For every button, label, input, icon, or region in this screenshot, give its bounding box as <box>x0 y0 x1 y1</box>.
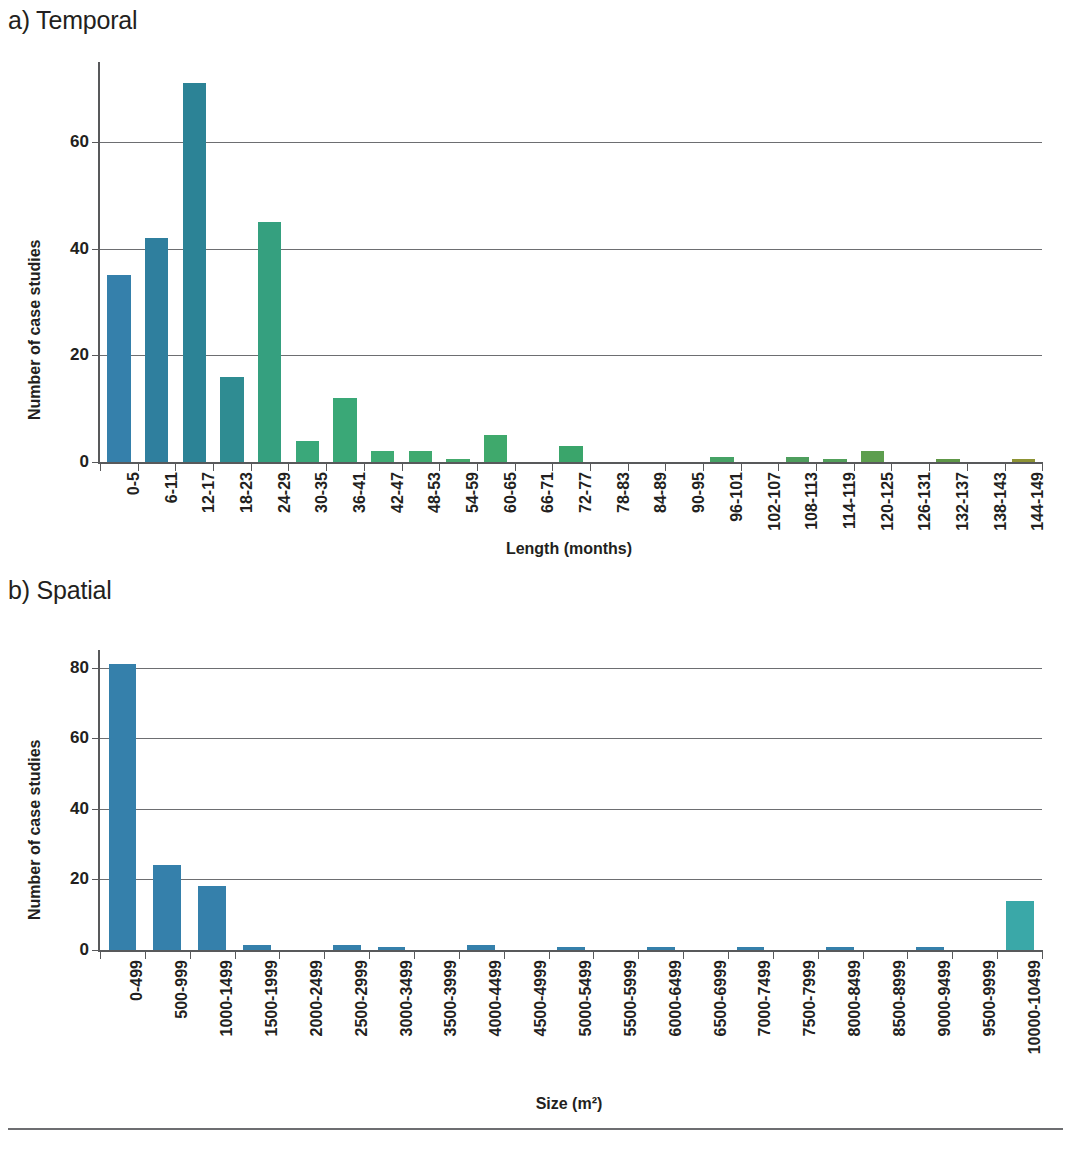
bar[interactable] <box>145 238 168 462</box>
panel-spatial: b) Spatial Number of case studies 020406… <box>0 570 1079 1130</box>
bar-slot[interactable] <box>549 650 594 950</box>
bar-slot[interactable] <box>439 62 477 462</box>
bar[interactable] <box>333 398 356 462</box>
bar-slot[interactable] <box>1005 62 1043 462</box>
x-tick-label: 1500-1999 <box>263 960 281 1037</box>
x-tick-mark <box>145 950 146 959</box>
x-tick-mark <box>235 950 236 959</box>
x-tick-mark <box>593 950 594 959</box>
bar-slot[interactable] <box>324 650 369 950</box>
x-tick-label: 12-17 <box>200 472 218 513</box>
bar-slot[interactable] <box>369 650 414 950</box>
bar-slot[interactable] <box>778 62 816 462</box>
x-tick-mark <box>138 462 139 471</box>
x-tick-label: 5000-5499 <box>577 960 595 1037</box>
x-tick-cell <box>100 462 138 471</box>
bar-slot[interactable] <box>891 62 929 462</box>
bar-slot[interactable] <box>952 650 997 950</box>
bar-slot[interactable] <box>459 650 504 950</box>
bar-slot[interactable] <box>251 62 289 462</box>
x-tick-mark <box>952 950 953 959</box>
bar-slot[interactable] <box>326 62 364 462</box>
bar[interactable] <box>220 377 243 462</box>
x-tick-mark <box>929 462 930 471</box>
bar-slot[interactable] <box>414 650 459 950</box>
bar[interactable] <box>409 451 432 462</box>
bar-slot[interactable] <box>279 650 324 950</box>
bar-slot[interactable] <box>515 62 553 462</box>
bar-slot[interactable] <box>997 650 1042 950</box>
x-tick-mark <box>728 950 729 959</box>
bar-slot[interactable] <box>138 62 176 462</box>
x-tick-label: 7000-7499 <box>756 960 774 1037</box>
bar[interactable] <box>183 83 206 462</box>
bar-slot[interactable] <box>863 650 908 950</box>
bar-slot[interactable] <box>665 62 703 462</box>
bar[interactable] <box>107 275 130 462</box>
bar-slot[interactable] <box>504 650 549 950</box>
y-tick-mark <box>92 249 100 250</box>
x-tick-label: 102-107 <box>766 472 784 531</box>
x-tick-mark <box>590 462 591 471</box>
bar-slot[interactable] <box>907 650 952 950</box>
x-tick-label: 48-53 <box>426 472 444 513</box>
x-tick-cell <box>1005 462 1043 471</box>
bar[interactable] <box>371 451 394 462</box>
bar-slot[interactable] <box>590 62 628 462</box>
bar[interactable] <box>1006 901 1034 950</box>
bar-slot[interactable] <box>477 62 515 462</box>
x-tick-cell <box>891 462 929 471</box>
bar-slot[interactable] <box>235 650 280 950</box>
bar-slot[interactable] <box>683 650 728 950</box>
bar-slot[interactable] <box>552 62 590 462</box>
bar[interactable] <box>109 664 137 950</box>
x-tick-mark <box>369 950 370 959</box>
bar-slot[interactable] <box>741 62 779 462</box>
bar[interactable] <box>861 451 884 462</box>
bar-slot[interactable] <box>816 62 854 462</box>
x-tick-mark <box>638 950 639 959</box>
x-tick-mark <box>1042 950 1043 959</box>
x-tick-label: 126-131 <box>916 472 934 531</box>
x-tick-label: 66-71 <box>539 472 557 513</box>
bar-slot[interactable] <box>728 650 773 950</box>
x-tick-mark <box>504 950 505 959</box>
bar-slot[interactable] <box>593 650 638 950</box>
x-tick-mark <box>414 950 415 959</box>
x-tick-cell <box>369 950 414 959</box>
bar-slot[interactable] <box>364 62 402 462</box>
bar[interactable] <box>296 441 319 462</box>
bar-slot[interactable] <box>213 62 251 462</box>
bar-slot[interactable] <box>773 650 818 950</box>
bar[interactable] <box>198 886 226 950</box>
bar[interactable] <box>484 435 507 462</box>
x-tick-label: 3000-3499 <box>398 960 416 1037</box>
x-tick-label: 84-89 <box>652 472 670 513</box>
bar-slot[interactable] <box>190 650 235 950</box>
bar[interactable] <box>258 222 281 462</box>
bar[interactable] <box>153 865 181 950</box>
bar-slot[interactable] <box>929 62 967 462</box>
bar-slot[interactable] <box>145 650 190 950</box>
x-tick-mark <box>703 462 704 471</box>
bar[interactable] <box>559 446 582 462</box>
bar-slot[interactable] <box>100 650 145 950</box>
x-tick-cell <box>213 462 251 471</box>
bar-slot[interactable] <box>818 650 863 950</box>
bar-slot[interactable] <box>175 62 213 462</box>
bar-slot[interactable] <box>402 62 440 462</box>
y-tick-mark <box>92 462 100 463</box>
x-tick-label: 5500-5999 <box>622 960 640 1037</box>
bar-slot[interactable] <box>100 62 138 462</box>
bar-slot[interactable] <box>628 62 666 462</box>
bar-slot[interactable] <box>967 62 1005 462</box>
bar-slot[interactable] <box>288 62 326 462</box>
bar-slot[interactable] <box>638 650 683 950</box>
bar-slot[interactable] <box>854 62 892 462</box>
bar-slot[interactable] <box>703 62 741 462</box>
x-tick-cell <box>929 462 967 471</box>
x-tick-label: 2000-2499 <box>308 960 326 1037</box>
x-tick-mark <box>251 462 252 471</box>
x-tick-label: 120-125 <box>879 472 897 531</box>
x-tick-cell <box>138 462 176 471</box>
